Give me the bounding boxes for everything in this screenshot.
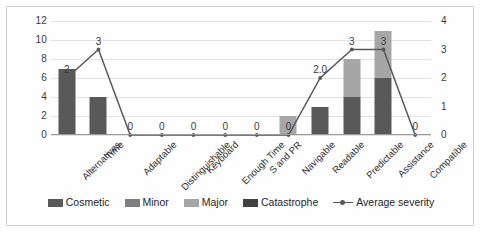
y-axis-secondary: 01234	[435, 21, 461, 135]
x-axis-label-navigable: Navigable	[299, 139, 337, 177]
y-tick-label: 2	[41, 111, 47, 121]
line-marker	[382, 48, 386, 52]
line-point-label: 0	[127, 122, 133, 132]
line-point-label: 3	[381, 37, 387, 47]
line-point-label: 3	[96, 37, 102, 47]
line-point-label: 0	[286, 122, 292, 132]
y-tick-label-secondary: 4	[441, 16, 447, 26]
line-point-label: 2.0	[313, 65, 327, 75]
legend-swatch-catastrophe	[243, 199, 258, 207]
y-tick-label: 6	[41, 73, 47, 83]
legend-item[interactable]: Average severity	[333, 197, 434, 208]
chart-legend: CosmeticMinorMajorCatastropheAverage sev…	[7, 197, 475, 208]
line-point-label: 0	[412, 122, 418, 132]
y-axis-primary: 024681012	[21, 21, 47, 135]
line-point-label: 0	[191, 122, 197, 132]
legend-item[interactable]: Catastrophe	[243, 197, 318, 208]
line-path	[67, 50, 415, 136]
x-axis-label-adaptable: Adaptable	[141, 139, 179, 177]
legend-label: Average severity	[356, 197, 434, 208]
y-tick-label-secondary: 3	[441, 45, 447, 55]
legend-item[interactable]: Cosmetic	[48, 197, 110, 208]
y-tick-label-secondary: 2	[441, 73, 447, 83]
line-point-label: 0	[222, 122, 228, 132]
legend-label: Catastrophe	[261, 197, 318, 208]
line-marker	[350, 48, 354, 52]
y-tick-label-secondary: 0	[441, 130, 447, 140]
average-severity-line	[51, 21, 431, 135]
x-axis-line	[51, 134, 431, 135]
line-point-label: 0	[159, 122, 165, 132]
legend-swatch-cosmetic	[48, 199, 63, 207]
y-tick-label: 4	[41, 92, 47, 102]
y-tick-label-secondary: 1	[441, 102, 447, 112]
legend-swatch-minor	[125, 199, 140, 207]
y-tick-label: 8	[41, 54, 47, 64]
legend-label: Minor	[143, 197, 169, 208]
line-point-label: 0	[254, 122, 260, 132]
line-point-label: 2	[64, 65, 70, 75]
legend-item[interactable]: Minor	[125, 197, 169, 208]
line-marker	[97, 48, 101, 52]
line-point-label: 3	[349, 37, 355, 47]
y-tick-label: 10	[35, 35, 47, 45]
plot-area: 230000002.0330	[51, 21, 431, 135]
x-axis-labels: AlternativesTimeAdaptableDistinguishable…	[51, 137, 431, 199]
legend-label: Major	[202, 197, 228, 208]
y-tick-label: 12	[35, 16, 47, 26]
legend-item[interactable]: Major	[184, 197, 228, 208]
line-marker	[65, 76, 69, 80]
legend-line-average-severity	[333, 199, 353, 207]
y-tick-label: 0	[41, 130, 47, 140]
line-marker	[318, 76, 322, 80]
chart-container: 024681012 01234 230000002.0330 Alternati…	[6, 6, 474, 226]
legend-swatch-major	[184, 199, 199, 207]
legend-label: Cosmetic	[66, 197, 110, 208]
